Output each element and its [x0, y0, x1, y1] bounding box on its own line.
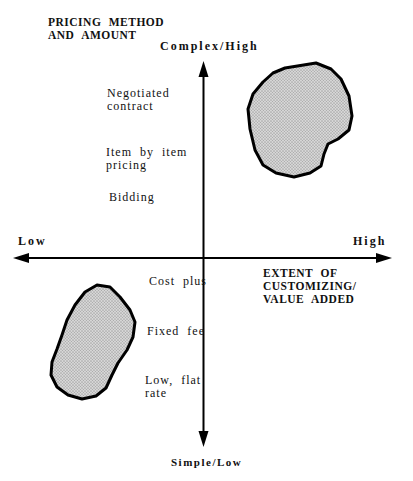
horizontal-axis-right-arrowhead: [376, 253, 392, 263]
level-label-bidding: Bidding: [109, 191, 155, 204]
level-label-fixed-fee: Fixed fee: [147, 325, 205, 338]
vertical-axis-top-arrowhead: [199, 61, 209, 77]
level-label-cost-plus: Cost plus: [149, 275, 207, 288]
quadrant-canvas: [0, 0, 413, 481]
x-axis-left-pole-label: Low: [18, 234, 47, 249]
level-label-low-flat-rate: Low, flat rate: [145, 374, 201, 400]
horizontal-axis-left-arrowhead: [13, 253, 29, 263]
x-axis-title: EXTENT OF CUSTOMIZING/ VALUE ADDED: [263, 267, 413, 306]
level-label-item-by-item-pricing: Item by item pricing: [106, 146, 187, 172]
lower-left-cluster-blob: [51, 285, 135, 399]
y-axis-title: PRICING METHOD AND AMOUNT: [48, 16, 164, 42]
vertical-axis-bottom-arrowhead: [199, 431, 209, 447]
y-axis-top-pole-label: Complex/High: [160, 39, 259, 54]
upper-right-cluster-blob: [248, 63, 352, 177]
x-axis-right-pole-label: High: [353, 234, 386, 249]
exhibit-figure: EXHIBIT 5.4 PRICING METHOD AND AMOUNT Co…: [0, 0, 413, 481]
level-label-negotiated-contract: Negotiated contract: [107, 87, 170, 113]
y-axis-bottom-pole-label: Simple/Low: [171, 456, 242, 468]
